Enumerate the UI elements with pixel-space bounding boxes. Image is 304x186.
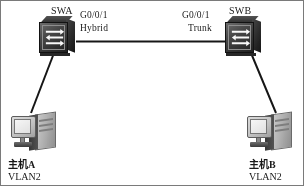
host-a-vlan: VLAN2 [8,171,41,182]
switch-b-label: SWB [229,5,251,16]
switch-arrows-icon [229,27,252,50]
switch-b-icon[interactable] [223,19,265,59]
switch-a-node[interactable] [37,19,79,59]
switch-a-icon[interactable] [37,19,79,59]
pc-drive-bay [275,123,289,127]
host-b-node[interactable] [245,109,301,155]
switch-a-port-label: G0/0/1 [80,10,108,21]
switch-a-label: SWA [51,5,73,16]
network-diagram-canvas: SWA G0/0/1 Hybrid SWB G0/0/1 Trunk [0,0,304,186]
switch-b-port-mode: Trunk [188,23,212,34]
host-a-name: 主机A [8,156,41,171]
pc-drive-bay [275,118,289,122]
pc-drive-bay [39,118,53,122]
switch-arrows-icon [43,27,66,50]
pc-tower [271,112,292,151]
monitor-screen [14,119,31,134]
switch-a-port-mode: Hybrid [80,23,108,34]
pc-drive-bay [39,123,53,127]
switch-base-shadow [40,53,70,56]
host-b-icon[interactable] [245,109,301,155]
host-b-name: 主机B [249,156,282,171]
monitor-bezel [247,116,272,138]
host-b-vlan: VLAN2 [249,171,282,182]
host-b-label-block: 主机B VLAN2 [249,156,282,182]
host-a-node[interactable] [9,109,65,155]
switch-front-face [225,22,254,53]
pc-drive-bay [39,128,53,132]
host-a-icon[interactable] [9,109,65,155]
host-a-label-block: 主机A VLAN2 [8,156,41,182]
monitor-base [250,142,268,147]
switch-b-port-label: G0/0/1 [182,10,210,21]
link-switchb-hostb [251,53,276,113]
monitor-screen [250,119,267,134]
switch-front-face [39,22,68,53]
switch-base-shadow [226,53,256,56]
pc-tower [35,112,56,151]
monitor-bezel [11,116,36,138]
pc-drive-bay [275,128,289,132]
monitor-base [14,142,32,147]
switch-b-node[interactable] [223,19,265,59]
link-switcha-hosta [31,53,54,113]
